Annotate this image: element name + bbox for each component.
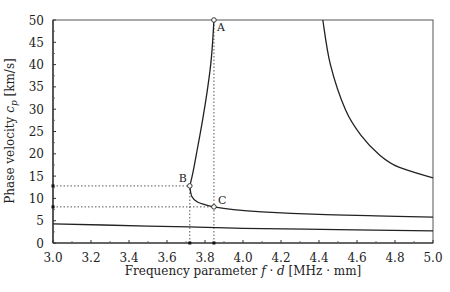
curve-mode-1 xyxy=(53,224,433,231)
dispersion-chart: ABC 3.03.23.43.63.84.04.24.44.64.85.0 05… xyxy=(0,0,450,292)
x-tick-label: 3.0 xyxy=(43,251,62,265)
y-tick-label: 15 xyxy=(29,170,44,184)
x-tick-label: 3.6 xyxy=(157,251,176,265)
x-tick-label: 4.2 xyxy=(271,251,290,265)
y-tick-label: 0 xyxy=(36,237,44,251)
x-tick-label: 5.0 xyxy=(423,251,442,265)
guide-lines xyxy=(52,20,216,245)
plot-border xyxy=(53,20,433,243)
x-tick-label: 4.6 xyxy=(347,251,366,265)
point-label-c: C xyxy=(218,194,226,207)
y-tick-label: 25 xyxy=(29,125,44,139)
y-tick-label: 10 xyxy=(29,192,44,206)
annotation-points: ABC xyxy=(179,18,227,209)
y-tick-label: 30 xyxy=(29,103,44,117)
y-tick-label: 35 xyxy=(29,80,44,94)
point-marker-c xyxy=(212,205,217,210)
y-axis-ticks: 05101520253035404550 xyxy=(29,14,56,251)
dispersion-curves xyxy=(53,20,433,231)
x-axis-marker xyxy=(188,242,191,245)
y-tick-label: 40 xyxy=(29,58,44,72)
y-axis-label: Phase velocity cp [km/s] xyxy=(3,58,19,203)
curve-mode-3 xyxy=(323,20,433,178)
y-tick-label: 50 xyxy=(29,14,44,28)
x-tick-label: 3.2 xyxy=(81,251,100,265)
x-tick-label: 3.4 xyxy=(119,251,138,265)
point-marker-a xyxy=(212,18,217,23)
point-marker-b xyxy=(188,184,193,189)
x-axis-ticks: 3.03.23.43.63.84.04.24.44.64.85.0 xyxy=(43,240,442,265)
point-label-b: B xyxy=(179,172,187,185)
curve-mode-2-branch xyxy=(190,20,214,186)
point-label-a: A xyxy=(216,21,226,34)
x-axis-marker xyxy=(212,242,215,245)
y-tick-label: 45 xyxy=(29,36,44,50)
x-tick-label: 4.0 xyxy=(233,251,252,265)
y-axis-marker xyxy=(52,205,55,208)
y-tick-label: 5 xyxy=(36,214,44,228)
y-tick-label: 20 xyxy=(29,147,44,161)
plot-frame xyxy=(53,20,433,243)
x-axis-label: Frequency parameter f · d [MHz · mm] xyxy=(125,264,361,278)
x-tick-label: 4.8 xyxy=(385,251,404,265)
x-tick-label: 4.4 xyxy=(309,251,328,265)
x-tick-label: 3.8 xyxy=(195,251,214,265)
